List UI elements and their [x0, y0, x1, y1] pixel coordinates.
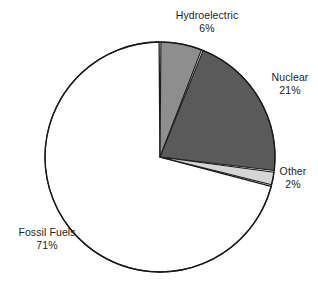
pie-chart: Hydroelectric 6% Nuclear 21% Other 2% Fo… [0, 0, 318, 283]
pie-label-fossil-fuels-value: 71% [4, 239, 90, 252]
pie-label-nuclear-name: Nuclear [262, 71, 318, 84]
pie-label-other-value: 2% [268, 178, 318, 191]
pie-label-nuclear-value: 21% [262, 84, 318, 97]
pie-label-fossil-fuels-name: Fossil Fuels [4, 226, 90, 239]
pie-label-fossil-fuels: Fossil Fuels 71% [4, 226, 90, 252]
pie-label-other-name: Other [268, 165, 318, 178]
pie-label-hydroelectric: Hydroelectric 6% [147, 9, 267, 35]
pie-label-hydroelectric-value: 6% [147, 22, 267, 35]
pie-label-nuclear: Nuclear 21% [262, 71, 318, 97]
pie-label-hydroelectric-name: Hydroelectric [147, 9, 267, 22]
pie-label-other: Other 2% [268, 165, 318, 191]
